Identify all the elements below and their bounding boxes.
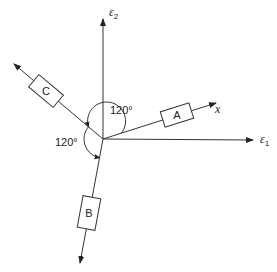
gauge-a: A (160, 103, 193, 127)
x-axis-label: x (214, 102, 221, 116)
gauge-c: C (29, 75, 64, 108)
e2-axis: ε2 (103, 5, 119, 139)
e1-axis: ε1 (103, 132, 270, 148)
angle-label-c-b: 120° (55, 136, 78, 148)
gauge-b-label: B (85, 207, 92, 219)
gauge-b: B (77, 196, 101, 231)
angle-arc-c-b: 120° (55, 127, 100, 158)
e2-axis-label: ε2 (109, 5, 119, 21)
strain-rosette-diagram: ε2 ε1 x A C B 120° 120° (0, 0, 277, 272)
gauge-a-label: A (173, 109, 181, 121)
angle-arc-a-c: 120° (88, 102, 133, 133)
gauge-c-label: C (42, 85, 50, 97)
angle-label-a-c: 120° (110, 104, 133, 116)
e1-axis-label: ε1 (260, 132, 270, 148)
